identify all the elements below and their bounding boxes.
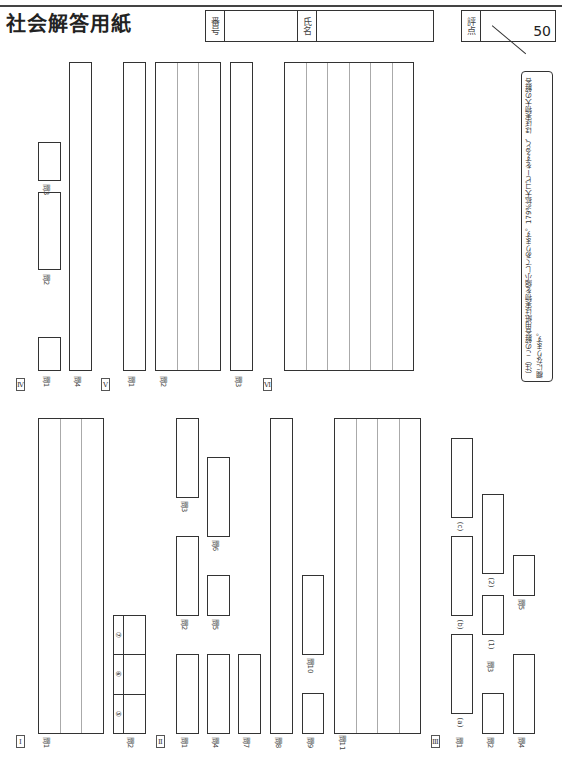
score-box: 評点 50	[461, 10, 556, 42]
iii-q3-label: 問3	[486, 661, 493, 672]
item-6-label: ⑥	[115, 671, 123, 677]
ii-q10-label: 問10	[306, 658, 313, 674]
section-ii-marker: Ⅱ	[156, 735, 165, 748]
v-q2-answer[interactable]	[155, 62, 221, 371]
ii-q9-label: 問9	[306, 737, 313, 748]
ii-q9-answer[interactable]	[302, 693, 324, 734]
iii-q2-label: 問2	[486, 737, 493, 748]
item-5-label: ⑤	[115, 711, 123, 717]
ii-q5-answer[interactable]	[207, 575, 230, 616]
iii-q3-1-label: (1)	[487, 640, 494, 650]
iv-q1-answer[interactable]	[38, 337, 61, 371]
i-q2-answer-grid: ⑦ ⑥ ⑤	[113, 615, 146, 734]
ii-q1-answer[interactable]	[176, 654, 199, 734]
ii-q11-answer[interactable]	[334, 418, 421, 734]
section-i-marker: Ⅰ	[16, 735, 25, 748]
i-q2-row-7[interactable]: ⑦	[114, 616, 145, 655]
student-name-label: 氏名	[298, 11, 317, 41]
ii-q4-answer[interactable]	[207, 654, 230, 734]
iii-q1a-label: (a)	[456, 718, 463, 728]
section-ii-label: Ⅱ	[158, 738, 163, 746]
iv-q3-answer[interactable]	[38, 142, 61, 181]
i-q2-row-6[interactable]: ⑥	[114, 655, 145, 694]
ii-q5-label: 問5	[211, 619, 218, 630]
iii-q5-answer[interactable]	[513, 555, 535, 596]
student-number-field[interactable]: 番号	[205, 10, 300, 42]
iv-q2-answer[interactable]	[38, 192, 61, 270]
section-vi-marker: Ⅵ	[263, 378, 272, 391]
iv-q1-label: 問1	[42, 376, 49, 387]
ii-q7-label: 問7	[242, 737, 249, 748]
ii-q4-label: 問4	[211, 737, 218, 748]
section-iv-marker: Ⅳ	[16, 378, 25, 391]
iv-q4-label: 問4	[73, 376, 80, 387]
section-iii-marker: Ⅲ	[431, 735, 440, 748]
ii-q7-answer[interactable]	[238, 654, 261, 734]
iii-q1b-label: (b)	[456, 620, 463, 630]
iv-q3-label: 問3	[42, 184, 49, 195]
iii-q1b-answer[interactable]	[451, 536, 473, 616]
iii-q3-1-answer[interactable]	[482, 595, 504, 635]
ii-q1-label: 問1	[180, 737, 187, 748]
section-iv-label: Ⅳ	[17, 381, 24, 389]
iii-q1c-answer[interactable]	[451, 438, 473, 518]
ii-q6-label: 問6	[211, 540, 218, 551]
i-q2-row-5[interactable]: ⑤	[114, 695, 145, 733]
iv-q2-label: 問2	[42, 274, 49, 285]
iv-q4-answer[interactable]	[69, 62, 92, 371]
ii-q8-answer[interactable]	[270, 418, 293, 734]
ii-q3-label: 問3	[180, 501, 187, 512]
score-slash	[492, 25, 527, 54]
section-i-label: Ⅰ	[19, 738, 22, 746]
ii-q6-answer[interactable]	[207, 457, 230, 537]
section-vi-label: Ⅵ	[264, 381, 271, 389]
i-q2-label: 問2	[126, 737, 133, 748]
note-box: （注）この解答用紙は実物を縮小してあります。179%拡大コピーをすると、ほぼ実物…	[521, 71, 553, 382]
ii-q3-answer[interactable]	[176, 418, 199, 498]
v-q1-label: 問1	[127, 376, 134, 387]
i-q1-label: 問1	[42, 737, 49, 748]
ii-q10-answer[interactable]	[302, 575, 324, 655]
ii-q11-label: 問11	[338, 735, 345, 751]
iii-q1-label: 問1	[455, 737, 462, 748]
iii-q5-label: 問5	[517, 599, 524, 610]
section-iii-label: Ⅲ	[432, 738, 439, 746]
iii-q1c-label: (c)	[456, 522, 463, 531]
item-7-label: ⑦	[115, 632, 123, 638]
ii-q2-answer[interactable]	[176, 536, 199, 616]
section-v-marker: Ⅴ	[101, 378, 110, 391]
v-q1-answer[interactable]	[123, 62, 146, 371]
iii-q4-answer[interactable]	[513, 654, 535, 734]
note-text: （注）この解答用紙は実物を縮小してあります。179%拡大コピーをすると、ほぼ実物…	[524, 75, 546, 378]
ii-q2-label: 問2	[180, 619, 187, 630]
iii-q4-label: 問4	[517, 737, 524, 748]
score-max: 50	[533, 23, 551, 39]
v-q3-label: 問3	[234, 376, 241, 387]
score-label: 評点	[462, 11, 481, 41]
student-name-field[interactable]: 氏名	[297, 10, 434, 42]
v-q2-label: 問2	[159, 376, 166, 387]
header-rule	[0, 5, 562, 7]
student-number-label: 番号	[206, 11, 225, 41]
iii-q1a-answer[interactable]	[451, 634, 473, 714]
vi-answer[interactable]	[284, 62, 414, 371]
iii-q3-2-label: (2)	[487, 578, 494, 588]
v-q3-answer[interactable]	[230, 62, 253, 371]
page-title: 社会解答用紙	[6, 8, 132, 37]
iii-q2-answer[interactable]	[482, 693, 504, 734]
section-v-label: Ⅴ	[103, 381, 108, 389]
i-q1-answer[interactable]	[38, 418, 104, 734]
iii-q3-2-answer[interactable]	[482, 494, 504, 574]
ii-q8-label: 問8	[274, 737, 281, 748]
